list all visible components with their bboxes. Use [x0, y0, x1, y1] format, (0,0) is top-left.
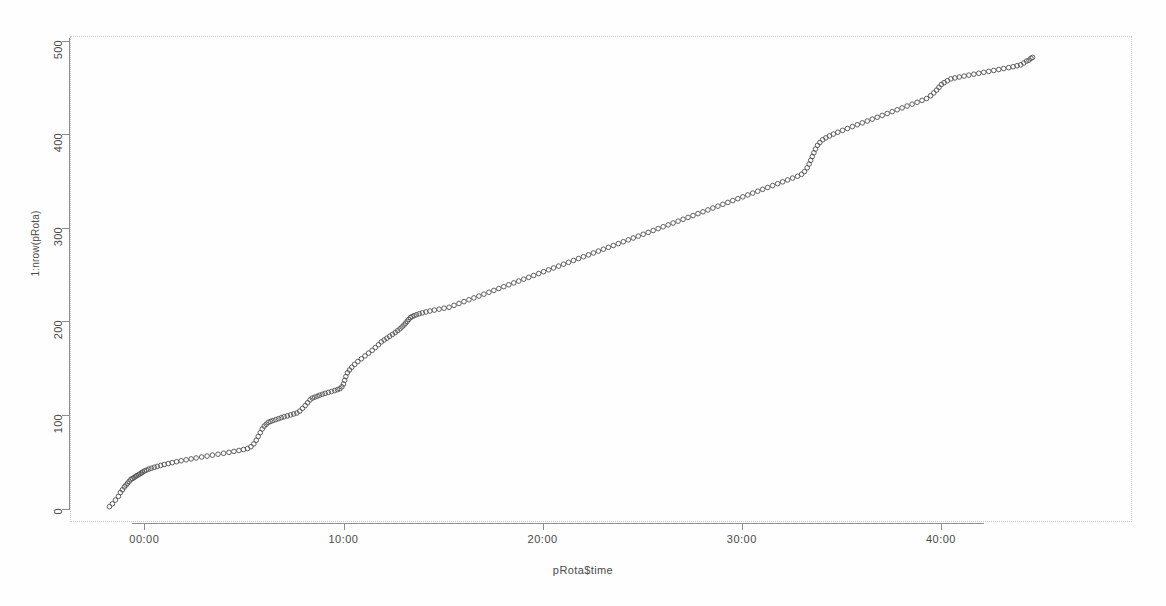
y-tick-label: 200 — [52, 320, 64, 360]
x-tick-label: 30:00 — [712, 533, 772, 545]
x-tick-mark — [941, 523, 942, 530]
x-axis-line — [132, 523, 984, 524]
x-tick-label: 40:00 — [911, 533, 971, 545]
y-axis-title: 1:nrow(pRota) — [30, 164, 41, 324]
x-tick-label: 20:00 — [513, 533, 573, 545]
y-tick-label: 0 — [52, 508, 64, 548]
y-axis-line — [69, 38, 70, 510]
y-tick-label: 500 — [52, 40, 64, 80]
x-tick-mark — [144, 523, 145, 530]
y-tick-label: 100 — [52, 414, 64, 454]
x-tick-label: 10:00 — [313, 533, 373, 545]
x-tick-label: 00:00 — [114, 533, 174, 545]
y-tick-label: 400 — [52, 133, 64, 173]
x-tick-mark — [543, 523, 544, 530]
chart-figure: 0100200300400500 00:0010:0020:0030:0040:… — [0, 0, 1166, 606]
x-tick-mark — [344, 523, 345, 530]
plot-frame — [70, 36, 1132, 522]
y-tick-label: 300 — [52, 227, 64, 267]
x-tick-mark — [742, 523, 743, 530]
x-axis-title: pRota$time — [0, 564, 1166, 576]
